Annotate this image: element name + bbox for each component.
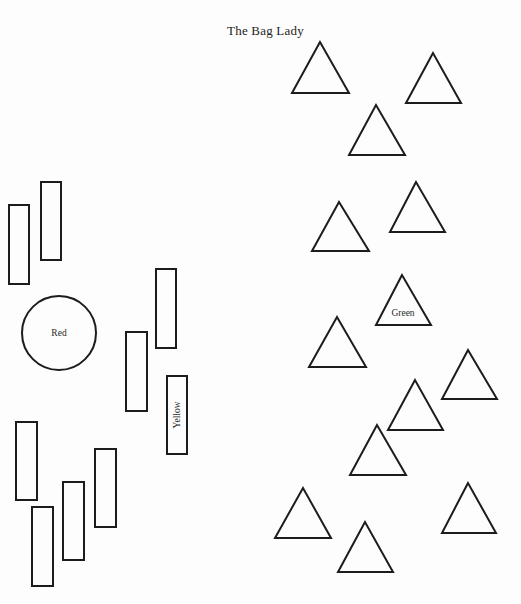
triangle — [350, 425, 406, 475]
rectangle — [63, 482, 84, 560]
triangle — [338, 522, 393, 572]
circle-red: Red — [22, 296, 96, 370]
triangle — [442, 350, 497, 399]
triangle — [275, 488, 331, 538]
rectangle — [95, 449, 116, 527]
triangle — [349, 105, 405, 155]
circle-red-label: Red — [51, 328, 67, 338]
rectangle-yellow-label: Yellow — [172, 401, 182, 428]
shape-canvas: Yellow Red Green — [0, 0, 521, 604]
rectangle — [156, 269, 176, 348]
rectangle-yellow: Yellow — [167, 376, 187, 454]
triangle — [390, 182, 445, 232]
rectangle — [126, 332, 147, 411]
triangle-green-label: Green — [391, 308, 414, 318]
rectangle — [41, 182, 61, 260]
triangle-group: Green — [275, 42, 497, 572]
triangle — [442, 483, 496, 533]
rectangle — [32, 507, 53, 586]
triangle — [406, 53, 461, 103]
figure-page: The Bag Lady Yellow Red — [0, 0, 521, 604]
triangle — [388, 380, 443, 430]
rectangle — [16, 422, 37, 500]
triangle-green: Green — [376, 275, 431, 325]
triangle — [312, 202, 369, 251]
triangle — [309, 317, 366, 367]
rectangle — [9, 205, 29, 284]
triangle — [292, 42, 349, 93]
rectangle-group: Yellow — [9, 182, 187, 586]
